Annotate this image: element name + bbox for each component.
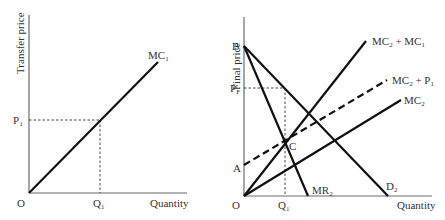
left-x-axis-label: Quantity [150,197,189,209]
point-a-label: A [233,162,241,174]
mc2-curve [244,100,401,196]
left-origin-label: O [17,197,25,209]
point-c-label: C [289,140,296,152]
d2-label: D2 [386,180,398,194]
right-panel: Final price B PF A C MC2 + MC1 MC2 + P1 … [230,17,436,213]
left-q1-label: Q1 [93,197,105,211]
mc1-curve [29,62,158,193]
mr2-label: MR2 [312,184,333,198]
mr2-curve [244,46,308,196]
left-panel: Transfer price MC1 P1 O Q1 Quantity [13,12,189,211]
transfer-pricing-diagram: Transfer price MC1 P1 O Q1 Quantity Fina… [0,0,445,220]
mc2-mc1-label: MC2 + MC1 [372,35,425,49]
left-y-axis-label: Transfer price [14,12,26,74]
mc2-p1-label: MC2 + P1 [392,74,434,88]
right-origin-label: O [232,199,240,211]
mc2-label: MC2 [404,94,425,108]
mc1-label: MC1 [148,49,169,63]
right-x-axis-label: Quantity [397,199,436,211]
p1-label: P1 [13,114,23,128]
right-q1-label: Q1 [278,199,290,213]
point-b-label: B [232,40,239,52]
